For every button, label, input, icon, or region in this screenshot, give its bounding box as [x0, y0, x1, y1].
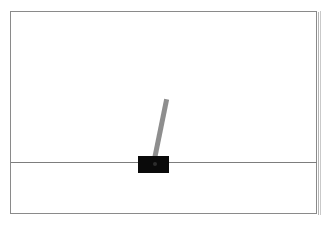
frame-right-edge-artifact — [320, 11, 321, 215]
pole-pivot-joint — [153, 162, 157, 166]
simulation-canvas — [0, 0, 328, 227]
frame-right-edge-artifact-inner — [318, 12, 319, 215]
